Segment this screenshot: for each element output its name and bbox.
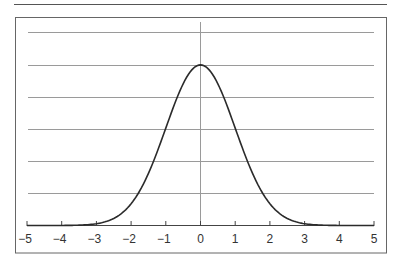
- x-tick-label: −5: [18, 232, 32, 246]
- x-tick-label: 5: [371, 232, 378, 246]
- x-tick-label: 4: [336, 232, 343, 246]
- x-tick-label: 1: [232, 232, 239, 246]
- x-tick-label: 2: [267, 232, 274, 246]
- x-axis-tick-labels: −5−4−3−2−1012345: [18, 232, 378, 246]
- x-tick-label: 3: [301, 232, 308, 246]
- x-tick-label: −4: [53, 232, 67, 246]
- normal-distribution-chart: −5−4−3−2−1012345: [0, 0, 397, 267]
- x-tick-label: 0: [197, 232, 204, 246]
- x-tick-label: −1: [157, 232, 171, 246]
- x-tick-label: −2: [122, 232, 136, 246]
- x-tick-label: −3: [88, 232, 102, 246]
